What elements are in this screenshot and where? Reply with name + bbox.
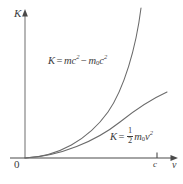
eq-cla-exponent: 2 — [150, 129, 153, 136]
eq-rel-lhs: K — [48, 55, 55, 66]
eq-cla-rest-mass: m — [134, 131, 142, 142]
eq-rel-mass: m — [64, 55, 72, 66]
equation-classical: K=12m0v2 — [110, 127, 153, 146]
eq-cla-one-half-fraction: 12 — [127, 127, 133, 146]
kinetic-energy-figure: K v 0 c K=mc2−m0c2 K=12m0v2 — [0, 0, 183, 184]
y-axis-label: K — [14, 8, 21, 19]
x-axis-label: v — [172, 160, 176, 170]
equation-relativistic: K=mc2−m0c2 — [48, 54, 107, 66]
eq-cla-numerator: 1 — [127, 127, 133, 135]
eq-rel-rest-mass: m — [88, 55, 96, 66]
y-axis-arrowhead — [22, 9, 28, 17]
x-axis-tick-label-c: c — [153, 160, 157, 169]
eq-cla-denominator: 2 — [127, 137, 133, 145]
eq-cla-equals: = — [117, 131, 126, 142]
eq-rel-equals: = — [55, 55, 64, 66]
plot-canvas — [0, 0, 183, 184]
eq-rel-exponent-2: 2 — [104, 53, 107, 60]
origin-label: 0 — [14, 159, 20, 170]
curve-classical — [25, 92, 167, 158]
eq-cla-lhs: K — [110, 131, 117, 142]
